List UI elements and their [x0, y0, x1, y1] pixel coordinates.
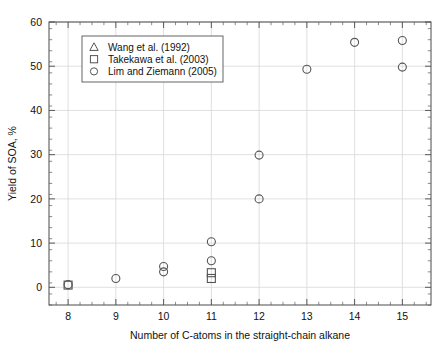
x-tick-label: 14 — [349, 310, 361, 322]
legend-label: Lim and Ziemann (2005) — [108, 66, 217, 77]
x-tick-label: 11 — [206, 310, 217, 322]
legend-label: Wang et al. (1992) — [108, 42, 190, 53]
y-tick-label: 20 — [30, 193, 42, 205]
y-tick-label: 50 — [30, 60, 42, 72]
y-tick-label: 40 — [30, 104, 42, 116]
chart-figure: 010203040506089101112131415Number of C-a… — [0, 0, 446, 350]
y-tick-label: 60 — [30, 16, 42, 28]
y-axis-title: Yield of SOA, % — [6, 126, 18, 201]
x-tick-label: 8 — [65, 310, 71, 322]
y-tick-label: 10 — [30, 237, 42, 249]
x-tick-label: 15 — [397, 310, 409, 322]
x-tick-label: 13 — [301, 310, 313, 322]
x-axis-title: Number of C-atoms in the straight-chain … — [130, 329, 350, 341]
x-tick-label: 9 — [113, 310, 119, 322]
scatter-plot-svg: 010203040506089101112131415Number of C-a… — [0, 0, 446, 350]
legend-label: Takekawa et al. (2003) — [108, 54, 209, 65]
x-tick-label: 12 — [253, 310, 265, 322]
y-tick-label: 30 — [30, 148, 42, 160]
y-tick-label: 0 — [36, 281, 42, 293]
x-tick-label: 10 — [158, 310, 170, 322]
